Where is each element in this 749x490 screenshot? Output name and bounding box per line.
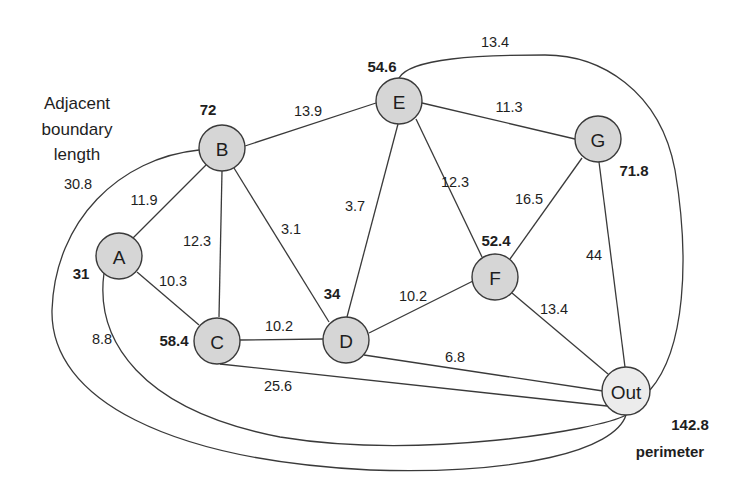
node-e[interactable]: E [376,78,422,124]
edge-a-out [103,273,626,445]
edge-b-c-weight: 12.3 [183,233,211,249]
node-b-total: 72 [200,101,217,118]
node-c[interactable]: C [194,318,240,364]
node-g[interactable]: G [575,116,621,162]
node-c-total: 58.4 [159,332,189,349]
edge-b-c [219,171,222,317]
node-out-total-caption: perimeter [636,443,705,460]
edge-b-d [234,168,329,322]
edge-c-d [240,339,323,340]
edge-f-out-weight: 13.4 [540,301,568,317]
node-g-label: G [591,130,606,151]
edge-d-e [347,124,398,317]
node-d[interactable]: D [323,317,369,363]
edge-c-out-weight: 25.6 [264,378,292,394]
edge-g-out-weight: 44 [586,247,602,263]
node-c-label: C [210,332,224,353]
edge-b-e-weight: 13.9 [294,103,322,119]
node-a[interactable]: A [96,233,142,279]
edge-a-out-weight: 8.8 [92,331,112,347]
node-b-label: B [216,139,229,160]
edge-d-out-weight: 6.8 [445,349,465,365]
edge-f-g-weight: 16.5 [515,191,543,207]
caption-line-3: length [54,145,100,164]
edge-d-f-weight: 10.2 [399,288,427,304]
node-e-total: 54.6 [367,58,396,75]
node-a-total: 31 [73,265,90,282]
edge-f-g [510,158,582,259]
edge-a-c-weight: 10.3 [159,273,187,289]
node-out-total: 142.8 [671,416,709,433]
edge-b-out-weight: 30.8 [64,176,92,192]
edge-e-out [399,55,683,390]
edge-g-out [599,162,625,367]
node-d-total: 34 [324,285,341,302]
edge-a-b-weight: 11.9 [130,192,157,208]
adjacent-boundary-length-caption: Adjacent boundary length [42,94,113,164]
edge-c-d-weight: 10.2 [265,318,293,334]
node-g-total: 71.8 [619,162,648,179]
node-f[interactable]: F [472,254,518,300]
edge-e-f-weight: 12.3 [441,174,469,190]
node-out-label: Out [611,382,642,403]
edge-e-out-weight: 13.4 [481,34,509,50]
edge-d-e-weight: 3.7 [345,198,365,214]
edge-b-d-weight: 3.1 [281,221,301,237]
node-out[interactable]: Out [602,367,650,415]
node-d-label: D [339,331,353,352]
node-e-label: E [393,92,406,113]
edge-e-g-weight: 11.3 [495,99,522,115]
node-b[interactable]: B [199,125,245,171]
region-adjacency-graph: A B C D E F G Out 31 72 58.4 34 54.6 52.… [0,0,749,490]
node-f-label: F [489,268,501,289]
node-a-label: A [113,247,126,268]
caption-line-2: boundary [42,120,113,139]
edge-d-out [364,355,603,391]
caption-line-1: Adjacent [44,94,110,113]
node-f-total: 52.4 [481,232,511,249]
